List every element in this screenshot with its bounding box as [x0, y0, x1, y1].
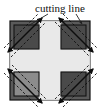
cutting-line-label: cutting line — [35, 2, 85, 14]
figure-root: cutting line — [0, 0, 101, 108]
corner-bottom-right — [61, 72, 86, 96]
corner-top-left — [14, 25, 39, 49]
corner-top-right — [61, 25, 86, 49]
cutting-line-diagram: cutting line — [0, 0, 101, 108]
corner-bottom-left — [14, 72, 39, 96]
